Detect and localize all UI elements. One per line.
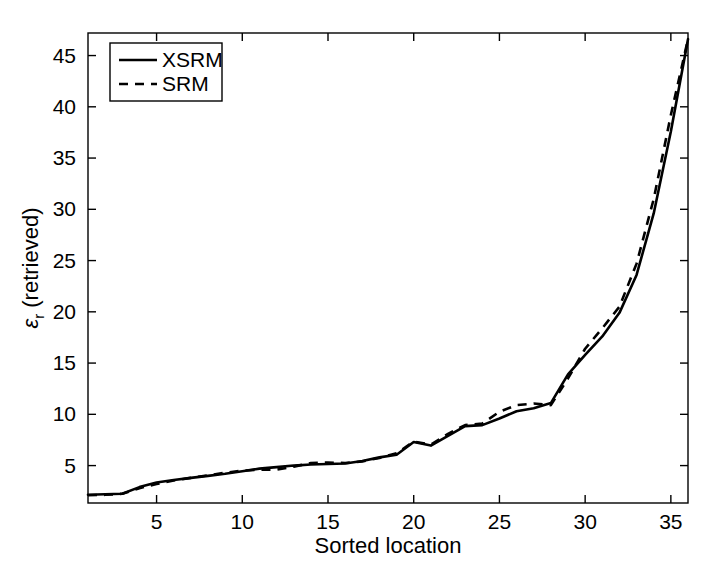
y-tick-label-10: 10 (53, 402, 76, 425)
x-tick-label-30: 30 (573, 510, 596, 533)
legend-label-srm: SRM (162, 72, 209, 95)
x-tick-label-20: 20 (402, 510, 425, 533)
x-tick-label-15: 15 (316, 510, 339, 533)
y-tick-label-30: 30 (53, 197, 76, 220)
x-tick-label-5: 5 (151, 510, 163, 533)
y-axis-title-epsilon: ε (18, 319, 43, 329)
y-tick-label-25: 25 (53, 249, 76, 272)
chart-figure: 5101520253035 51015202530354045 Sorted l… (0, 0, 715, 578)
x-axis-title: Sorted location (315, 533, 462, 558)
y-axis-title: εr (retrieved) (18, 207, 47, 328)
svg-text:εr (retrieved): εr (retrieved) (18, 207, 47, 328)
legend-label-xsrm: XSRM (162, 48, 223, 71)
line-chart: 5101520253035 51015202530354045 Sorted l… (0, 0, 715, 578)
y-tick-label-45: 45 (53, 44, 76, 67)
x-tick-label-25: 25 (488, 510, 511, 533)
y-tick-label-35: 35 (53, 146, 76, 169)
y-tick-label-40: 40 (53, 95, 76, 118)
y-axis-tick-labels: 51015202530354045 (53, 44, 76, 477)
y-tick-label-15: 15 (53, 351, 76, 374)
legend[interactable]: XSRM SRM (110, 43, 223, 101)
x-tick-label-10: 10 (231, 510, 254, 533)
y-tick-label-5: 5 (64, 454, 76, 477)
y-tick-label-20: 20 (53, 300, 76, 323)
y-axis-title-rest: (retrieved) (18, 207, 43, 313)
x-tick-label-35: 35 (659, 510, 682, 533)
chart-background (0, 0, 715, 578)
